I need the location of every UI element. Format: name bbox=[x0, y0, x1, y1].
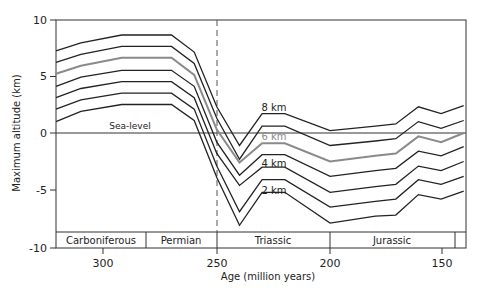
label-8km: 8 km bbox=[261, 102, 286, 113]
chart: 10 5 0 -5 -10 Maximum altitude (km) 300 … bbox=[0, 0, 483, 293]
x-tick-label: 300 bbox=[93, 257, 114, 270]
y-tick-label: -5 bbox=[36, 184, 47, 197]
y-axis bbox=[50, 20, 56, 248]
y-axis-label: Maximum altitude (km) bbox=[11, 74, 22, 191]
sea-level-label: Sea-level bbox=[109, 121, 150, 131]
period-label-permian: Permian bbox=[161, 235, 202, 246]
x-tick-label: 150 bbox=[432, 257, 453, 270]
x-axis bbox=[103, 248, 442, 254]
x-tick-label: 250 bbox=[207, 257, 228, 270]
altitude-curve bbox=[56, 58, 464, 163]
altitude-curve bbox=[56, 46, 464, 159]
y-tick-label: -10 bbox=[29, 242, 47, 255]
period-label-carboniferous: Carboniferous bbox=[66, 235, 136, 246]
altitude-curve bbox=[56, 93, 464, 212]
label-6km: 6 km bbox=[261, 131, 286, 142]
altitude-curve bbox=[56, 82, 464, 193]
period-label-triassic: Triassic bbox=[254, 235, 291, 246]
x-axis-label: Age (million years) bbox=[221, 271, 315, 282]
label-4km: 4 km bbox=[261, 158, 286, 169]
y-tick-label: 0 bbox=[40, 127, 47, 140]
y-tick-label: 5 bbox=[40, 70, 47, 83]
period-label-jurassic: Jurassic bbox=[372, 235, 411, 246]
y-tick-label: 10 bbox=[33, 14, 47, 27]
x-tick-label: 200 bbox=[320, 257, 341, 270]
label-2km: 2 km bbox=[261, 185, 286, 196]
